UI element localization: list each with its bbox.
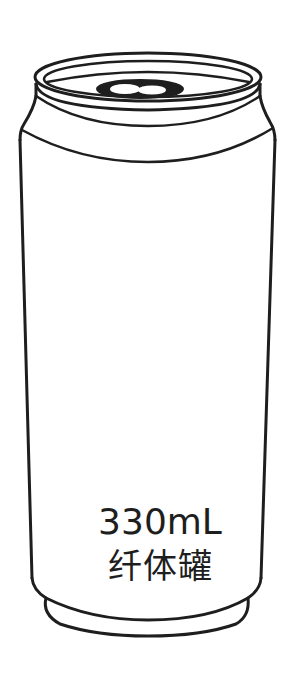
volume-label: 330mL	[60, 502, 260, 542]
can-body-band	[22, 128, 273, 162]
can-body-right	[261, 140, 275, 578]
can-body-left	[20, 140, 32, 578]
can-illustration: 330mL 纤体罐	[0, 0, 296, 682]
pull-tab-icon	[98, 81, 182, 97]
can-base-ring	[45, 598, 248, 636]
product-name-label: 纤体罐	[60, 546, 260, 586]
